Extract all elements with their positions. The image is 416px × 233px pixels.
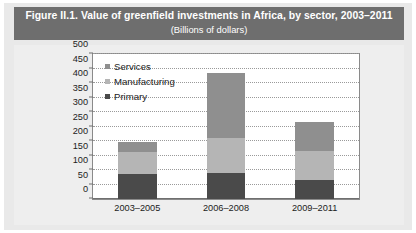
legend-swatch-icon [105,64,110,69]
bar-segment-manufacturing[interactable] [295,151,334,180]
y-tick-mark-250 [89,125,93,126]
y-tick-mark-400 [89,82,93,83]
bar-segment-primary[interactable] [118,174,157,199]
bar-segment-services[interactable] [118,142,157,152]
chart-legend: ServicesManufacturingPrimary [105,60,175,103]
y-axis-tick-label: 350 [48,83,88,93]
x-axis-tick-label: 2006–2008 [203,203,249,213]
bar-stack[interactable] [295,122,334,199]
y-axis-tick-label: 400 [48,68,88,78]
bar-segment-services[interactable] [295,122,334,152]
bar-segment-manufacturing[interactable] [118,152,157,175]
bar-stack[interactable] [118,142,157,199]
bar-segment-services[interactable] [207,73,246,138]
figure-root: Figure II.1. Value of greenfield investm… [0,0,416,233]
bar-segment-manufacturing[interactable] [207,138,246,172]
y-tick-mark-0 [89,198,93,199]
y-tick-mark-450 [89,67,93,68]
y-axis-tick-label: 50 [48,170,88,180]
y-tick-mark-350 [89,96,93,97]
y-axis-tick-label: 300 [48,97,88,107]
y-axis-tick-label: 100 [48,155,88,165]
legend-swatch-icon [105,94,110,99]
legend-label: Primary [114,90,147,103]
y-tick-mark-500 [89,53,93,54]
legend-item-manufacturing[interactable]: Manufacturing [105,75,175,88]
bar-segment-primary[interactable] [207,173,246,199]
bar-stack[interactable] [207,73,246,199]
x-axis-tick-label: 2003–2005 [114,203,160,213]
bar-segment-primary[interactable] [295,180,334,199]
y-axis-tick-label: 150 [48,141,88,151]
legend-label: Services [114,60,151,73]
x-axis-tick-label: 2009–2011 [292,203,337,213]
legend-item-services[interactable]: Services [105,60,175,73]
y-axis-tick-label: 450 [48,54,88,64]
y-tick-mark-100 [89,169,93,170]
y-axis-tick-label: 500 [48,39,88,49]
figure-subtitle: (Billions of dollars) [14,23,404,36]
gridline-500 [93,53,359,54]
y-tick-mark-300 [89,111,93,112]
plot-area: 5004504003503002502001501005002003–20052… [92,53,360,200]
figure-title-bar: Figure II.1. Value of greenfield investm… [14,7,404,40]
y-tick-mark-50 [89,183,93,184]
y-axis-tick-label: 250 [48,112,88,122]
y-tick-mark-150 [89,154,93,155]
y-axis-tick-label: 200 [48,126,88,136]
legend-item-primary[interactable]: Primary [105,90,175,103]
y-tick-mark-200 [89,140,93,141]
legend-label: Manufacturing [114,75,175,88]
chart-card: 5004504003503002502001501005002003–20052… [14,45,404,225]
figure-title: Figure II.1. Value of greenfield investm… [14,9,404,23]
y-axis-tick-label: 0 [48,184,88,194]
legend-swatch-icon [105,79,110,84]
